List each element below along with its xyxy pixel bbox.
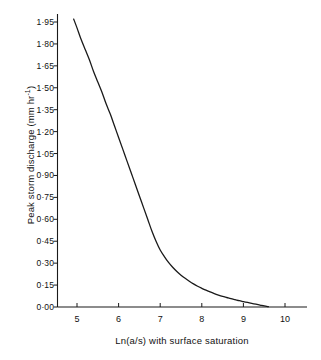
axis-lines <box>58 14 308 307</box>
plot-area <box>0 0 321 360</box>
chart-figure: Peak storm discharge (mm hr-1) 0·000·150… <box>0 0 321 360</box>
data-series-line <box>74 19 269 307</box>
